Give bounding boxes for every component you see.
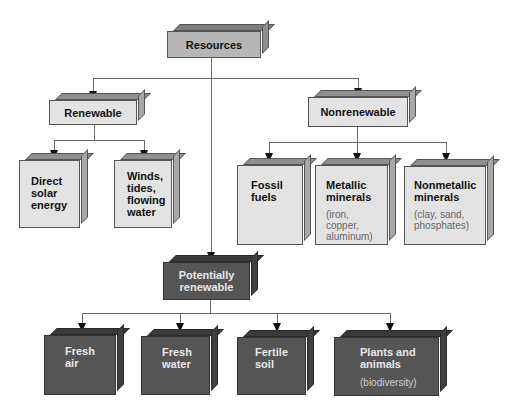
box-top-face [173,24,275,31]
connector-to-renewable [93,78,94,92]
box-side-face [211,325,218,391]
label-line: Winds, [127,170,166,182]
label-line: Fresh [65,345,95,357]
box-side-face [173,149,180,224]
box-top-face [169,255,264,262]
node-fresh-water: Fresh water [141,336,210,395]
label-line: tides, [127,182,166,194]
node-label: Renewable [49,107,137,119]
node-examples: (clay, sand, phosphates) [414,209,469,231]
connector-potential-down [210,300,211,313]
label-line: Potentially [163,269,250,281]
node-renewable: Renewable [49,100,137,125]
node-resources: Resources [167,31,261,58]
label-line: renewable [163,281,250,293]
example-line: phosphates) [414,220,469,231]
node-nonmetallic-minerals: Nonmetallic minerals (clay, sand, phosph… [404,166,486,245]
node-label: Metallic minerals [326,179,371,203]
label-line: Metallic [326,179,371,191]
label-line: Fossil [251,179,283,191]
example-line: (clay, sand, [414,209,469,220]
label-line: solar [31,187,67,199]
node-examples: (iron, copper, aluminum) [326,209,373,242]
node-label: Fossil fuels [251,179,283,203]
label-line: Fresh [162,346,192,358]
label-line: fuels [251,191,283,203]
label-line: Direct [31,175,67,187]
node-label: Fresh air [65,345,95,369]
label-line: minerals [414,191,476,203]
connector-to-potentially-renewable [211,78,212,253]
label-line: Nonmetallic [414,179,476,191]
node-label: Potentially renewable [163,269,250,293]
connector-renewable-down [94,125,95,140]
node-label: Fresh water [162,346,192,370]
example-line: (biodiversity) [360,377,417,388]
example-line: aluminum) [326,231,373,242]
label-line: soil [255,358,288,370]
connector-potential-horizontal [82,313,391,314]
node-label: Resources [167,39,261,51]
example-line: (iron, [326,209,373,220]
label-line: animals [360,358,416,370]
box-side-face [487,155,494,241]
connector-top-horizontal [93,78,359,79]
label-line: Plants and [360,346,416,358]
box-front-face [404,166,486,245]
node-nonrenewable: Nonrenewable [308,97,408,127]
connector-root-down [211,58,212,78]
label-line: minerals [326,191,371,203]
example-line: copper, [326,220,373,231]
connector-renewable-horizontal [54,140,145,141]
label-line: air [65,357,95,369]
label-line: flowing [127,194,166,206]
node-potentially-renewable: Potentially renewable [163,262,250,300]
box-side-face [81,149,88,224]
box-side-face [440,326,447,392]
node-label: Nonmetallic minerals [414,179,476,203]
box-top-face [340,330,453,337]
box-side-face [262,20,269,54]
box-side-face [117,324,124,391]
node-label: Fertile soil [255,346,288,370]
node-label: Winds, tides, flowing water [127,170,166,218]
box-side-face [307,326,314,391]
node-winds-tides-water: Winds, tides, flowing water [114,160,172,228]
box-side-face [409,86,416,123]
node-label: Nonrenewable [308,106,408,118]
box-side-face [304,154,311,241]
box-top-face [314,90,422,97]
box-front-face [237,165,303,245]
label-line: water [162,358,192,370]
node-direct-solar-energy: Direct solar energy [19,160,80,228]
node-label: Direct solar energy [31,175,67,211]
label-line: Fertile [255,346,288,358]
node-plants-animals: Plants and animals (biodiversity) [334,337,439,396]
node-fossil-fuels: Fossil fuels [237,165,303,245]
box-top-face [55,93,151,100]
label-line: energy [31,199,67,211]
box-side-face [138,89,145,121]
node-metallic-minerals: Metallic minerals (iron, copper, aluminu… [315,165,388,245]
connector-nonrenewable-horizontal [269,142,447,143]
node-examples: (biodiversity) [360,377,417,388]
box-side-face [251,251,258,296]
label-line: water [127,206,166,218]
box-side-face [389,154,396,241]
node-fertile-soil: Fertile soil [237,337,306,395]
node-label: Plants and animals [360,346,416,370]
node-fresh-air: Fresh air [44,335,116,395]
connector-nonrenewable-down [357,127,358,142]
